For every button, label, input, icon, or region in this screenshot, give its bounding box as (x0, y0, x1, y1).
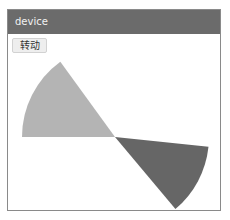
dark-sector (115, 137, 208, 209)
light-sector (22, 62, 115, 137)
drawing-canvas (8, 10, 222, 212)
device-window: device 转动 (7, 9, 221, 211)
